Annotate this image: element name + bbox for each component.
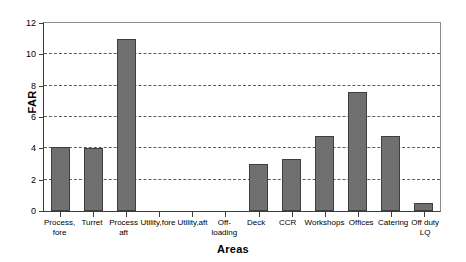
x-tick-mark [225, 212, 226, 217]
y-tick-label: 6 [31, 112, 36, 122]
x-tick-mark [93, 212, 94, 217]
x-tick-label-line1: Turret [81, 218, 102, 227]
x-tick-mark [259, 212, 260, 217]
x-tick-label: Process,fore [43, 218, 76, 238]
bar [381, 136, 399, 211]
bar-slot [242, 23, 275, 211]
plot-area: 024681012 [43, 22, 441, 212]
x-tick-label: Offices [345, 218, 377, 238]
bar-slot [341, 23, 374, 211]
x-tick-label: Turret [76, 218, 108, 238]
x-tick-mark [60, 212, 61, 217]
x-tick-label: Off-loading [209, 218, 241, 238]
x-tick-label: Utility,aft [176, 218, 208, 238]
x-tick-label-line2: aft [109, 228, 139, 238]
x-tick-label: CCR [272, 218, 304, 238]
x-tick-slot [308, 212, 341, 217]
bar [315, 136, 333, 211]
x-tick-mark [292, 212, 293, 217]
y-tick-label: 2 [31, 175, 36, 185]
x-tick-slot [375, 212, 408, 217]
x-tick-slot [176, 212, 209, 217]
y-tick-label: 4 [31, 143, 36, 153]
bar-slot [110, 23, 143, 211]
x-tick-slot [76, 212, 109, 217]
bar-slot [176, 23, 209, 211]
bar [348, 92, 366, 211]
x-tick-label-line1: Offices [349, 218, 374, 227]
x-tick-slot [143, 212, 176, 217]
x-tick-slot [342, 212, 375, 217]
x-axis-labels: Process,foreTurretProcessaftUtility,fore… [43, 218, 441, 238]
x-axis-ticks [43, 212, 441, 217]
bar [414, 203, 432, 211]
bar-series [44, 23, 440, 211]
x-tick-mark [391, 212, 392, 217]
bar-chart: FAR 024681012 Process,foreTurretProcessa… [0, 0, 466, 262]
bar-slot [77, 23, 110, 211]
x-tick-mark [192, 212, 193, 217]
x-tick-label: Off dutyLQ [409, 218, 441, 238]
bar-slot [143, 23, 176, 211]
y-tick-label: 0 [31, 206, 36, 216]
bar-slot [44, 23, 77, 211]
x-tick-label-line1: Utility,aft [177, 218, 207, 227]
x-tick-label-line1: CCR [279, 218, 296, 227]
bar [51, 147, 69, 211]
bar-slot [209, 23, 242, 211]
x-tick-label-line1: Deck [247, 218, 265, 227]
bar-slot [374, 23, 407, 211]
x-tick-mark [358, 212, 359, 217]
x-tick-label: Workshops [304, 218, 346, 238]
x-axis-title: Areas [0, 243, 466, 255]
x-tick-label-line1: Off duty [411, 218, 439, 227]
bar [249, 164, 267, 211]
x-tick-label-line1: Catering [378, 218, 408, 227]
x-tick-label-line1: Process [109, 218, 138, 227]
x-tick-label-line1: Process, [44, 218, 75, 227]
x-tick-label: Processaft [108, 218, 140, 238]
x-tick-label-line2: LQ [410, 228, 440, 238]
x-tick-slot [43, 212, 76, 217]
x-tick-slot [408, 212, 441, 217]
x-tick-label-line2: fore [44, 228, 75, 238]
x-tick-mark [159, 212, 160, 217]
x-tick-mark [424, 212, 425, 217]
x-tick-label-line1: Workshops [305, 218, 345, 227]
bar-slot [275, 23, 308, 211]
x-tick-slot [109, 212, 142, 217]
x-tick-mark [126, 212, 127, 217]
x-tick-slot [209, 212, 242, 217]
bar [117, 39, 135, 211]
x-tick-label: Utility,fore [139, 218, 176, 238]
y-tick-label: 8 [31, 81, 36, 91]
x-tick-slot [275, 212, 308, 217]
bar-slot [308, 23, 341, 211]
y-tick-label: 10 [26, 49, 36, 59]
x-tick-label-line1: Off-loading [211, 218, 237, 237]
bar-slot [407, 23, 440, 211]
bar [282, 159, 300, 211]
y-tick-label: 12 [26, 18, 36, 28]
x-tick-label: Deck [240, 218, 272, 238]
bar [84, 148, 102, 211]
x-tick-mark [325, 212, 326, 217]
x-tick-label-line1: Utility,fore [140, 218, 175, 227]
x-tick-slot [242, 212, 275, 217]
x-tick-label: Catering [377, 218, 409, 238]
